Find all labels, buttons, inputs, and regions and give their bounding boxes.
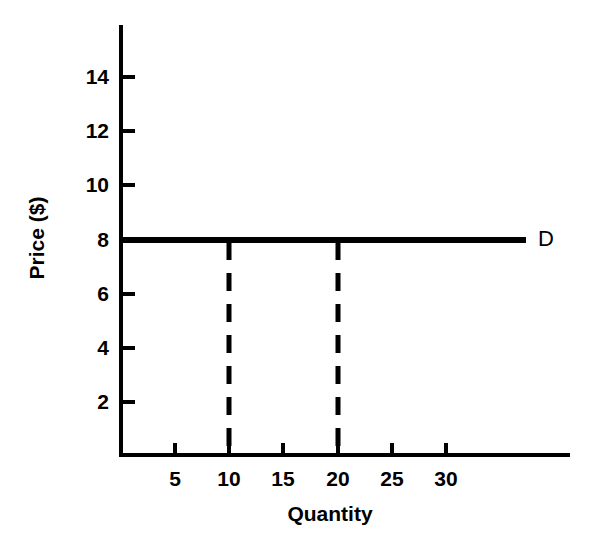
y-axis-title: Price ($) — [25, 197, 48, 280]
x-tick-label-10: 10 — [209, 468, 249, 489]
y-tick-label-10: 10 — [79, 174, 109, 195]
x-tick-label-15: 15 — [263, 468, 303, 489]
x-tick-label-25: 25 — [372, 468, 412, 489]
y-tick-label-6: 6 — [79, 283, 109, 304]
x-tick-label-30: 30 — [426, 468, 466, 489]
x-axis-title: Quantity — [250, 503, 410, 524]
y-tick-label-14: 14 — [79, 66, 109, 87]
x-axis-ticks — [175, 432, 446, 455]
y-tick-label-4: 4 — [79, 337, 109, 358]
y-tick-label-8: 8 — [79, 229, 109, 250]
y-tick-label-2: 2 — [79, 391, 109, 412]
demand-curve-figure: Price ($) 14 12 10 8 6 4 2 5 10 15 20 25… — [0, 0, 597, 542]
x-tick-label-5: 5 — [155, 468, 195, 489]
x-tick-label-20: 20 — [318, 468, 358, 489]
demand-curve-label: D — [538, 228, 554, 250]
y-tick-label-12: 12 — [79, 120, 109, 141]
